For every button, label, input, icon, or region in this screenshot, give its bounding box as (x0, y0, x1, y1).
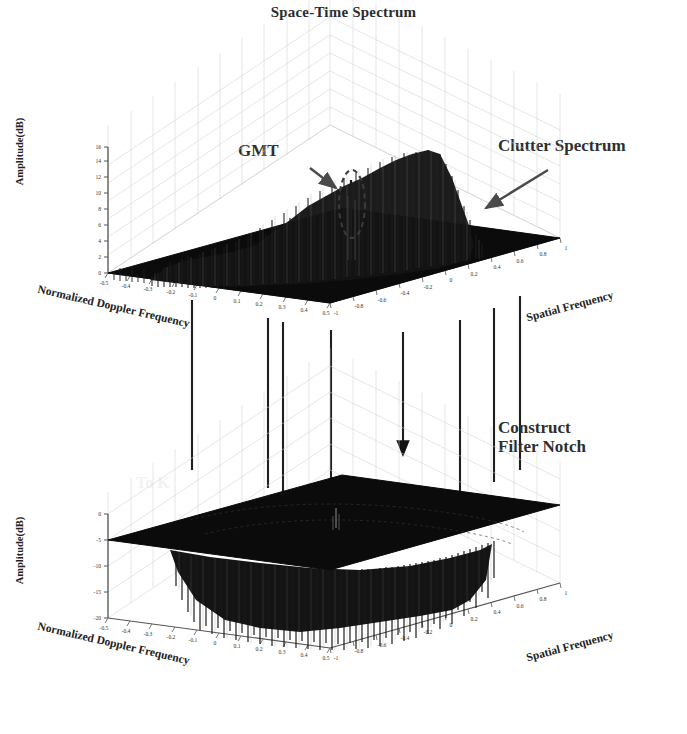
svg-text:-0.2: -0.2 (424, 284, 433, 290)
svg-text:0.2: 0.2 (471, 616, 478, 622)
top-plot-svg: 02 46 810 1214 16 -0.5-0.4 (0, 28, 687, 368)
svg-text:-5: -5 (96, 537, 101, 543)
svg-text:-0.4: -0.4 (401, 635, 410, 641)
clutter-ridge (114, 150, 482, 288)
svg-text:-0.4: -0.4 (401, 290, 410, 296)
svg-text:4: 4 (98, 238, 101, 244)
svg-text:0.4: 0.4 (494, 264, 501, 270)
svg-text:-0.3: -0.3 (144, 631, 153, 637)
svg-text:0.2: 0.2 (471, 271, 478, 277)
svg-text:-0.5: -0.5 (100, 625, 109, 631)
svg-text:8: 8 (98, 206, 101, 212)
svg-text:-0.3: -0.3 (144, 286, 153, 292)
svg-text:-0.5: -0.5 (100, 280, 109, 286)
svg-text:-15: -15 (94, 589, 102, 595)
svg-text:0.6: 0.6 (517, 258, 524, 264)
svg-text:16: 16 (95, 144, 101, 150)
svg-text:0.5: 0.5 (323, 310, 330, 316)
svg-text:0.5: 0.5 (323, 655, 330, 661)
svg-text:0.3: 0.3 (279, 649, 286, 655)
svg-text:0.1: 0.1 (234, 298, 241, 304)
svg-text:-0.1: -0.1 (189, 637, 198, 643)
svg-text:-1: -1 (334, 310, 339, 316)
svg-text:-0.8: -0.8 (355, 303, 364, 309)
figure-title: Space-Time Spectrum (0, 4, 687, 21)
clutter-arrow (486, 170, 548, 208)
figure-root: Space-Time Spectrum Amplitude(dB) Normal… (0, 0, 687, 734)
svg-text:-0.6: -0.6 (378, 642, 387, 648)
svg-text:0: 0 (98, 511, 101, 517)
svg-text:10: 10 (95, 190, 101, 196)
svg-text:0.2: 0.2 (256, 646, 263, 652)
svg-text:-0.4: -0.4 (122, 283, 131, 289)
svg-text:-0.2: -0.2 (167, 289, 176, 295)
svg-text:2: 2 (98, 254, 101, 260)
svg-text:1: 1 (565, 590, 568, 596)
svg-text:0.3: 0.3 (279, 304, 286, 310)
svg-text:0: 0 (98, 270, 101, 276)
svg-text:0.4: 0.4 (301, 652, 308, 658)
svg-text:0: 0 (214, 295, 217, 301)
svg-text:0.4: 0.4 (301, 307, 308, 313)
svg-text:0: 0 (214, 640, 217, 646)
svg-text:-1: -1 (334, 655, 339, 661)
svg-text:-10: -10 (94, 563, 102, 569)
svg-text:6: 6 (98, 222, 101, 228)
svg-text:12: 12 (95, 174, 101, 180)
gmt-arrow (310, 168, 336, 188)
svg-text:-0.6: -0.6 (378, 297, 387, 303)
svg-text:0.4: 0.4 (494, 609, 501, 615)
svg-text:0.6: 0.6 (517, 603, 524, 609)
svg-text:0.2: 0.2 (256, 301, 263, 307)
svg-text:-20: -20 (94, 615, 102, 621)
filter-notch-panel: Amplitude(dB) Normalized Doppler Frequen… (0, 400, 687, 734)
svg-text:14: 14 (95, 158, 101, 164)
svg-text:0.8: 0.8 (540, 251, 547, 257)
bottom-plot-svg: -20-15 -10-5 0 -0.5-0.4 -0.3-0.2 (0, 400, 687, 734)
svg-text:-0.1: -0.1 (189, 292, 198, 298)
svg-text:1: 1 (565, 245, 568, 251)
svg-text:0.8: 0.8 (540, 596, 547, 602)
svg-text:0: 0 (450, 277, 453, 283)
svg-text:-0.4: -0.4 (122, 628, 131, 634)
svg-text:0.1: 0.1 (234, 643, 241, 649)
clutter-spectrum-panel: Amplitude(dB) Normalized Doppler Frequen… (0, 28, 687, 368)
svg-text:-0.2: -0.2 (167, 634, 176, 640)
